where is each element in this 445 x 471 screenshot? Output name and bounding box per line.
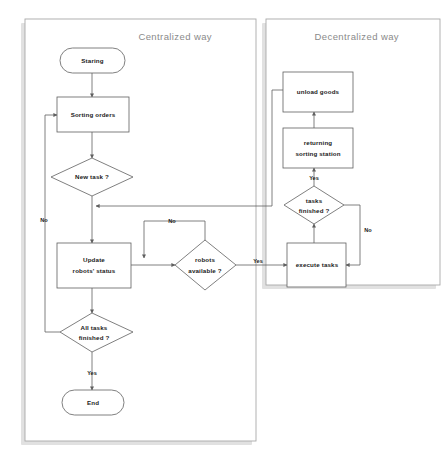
node-end-label: End [87,399,99,406]
node-returning-sorting-station[interactable] [283,128,353,168]
flowchart-canvas: Centralized way Decentralized way [0,0,445,471]
node-returning-sorting-station-label-1: returning [304,139,333,146]
edge-label-tasksfinished-yes: Yes [309,175,319,181]
node-update-robots-status[interactable] [57,243,131,288]
flowchart-diagram: Centralized way Decentralized way [0,0,445,471]
node-sorting-orders-label: Sorting orders [71,111,116,118]
node-unload-goods-label: unload goods [297,88,340,95]
node-robots-available-label-1: robots [195,256,216,263]
node-all-tasks-finished-label-1: All tasks [81,324,108,331]
node-execute-tasks-label: execute tasks [296,261,339,268]
centralized-panel [25,19,256,441]
decentralized-panel-title: Decentralized way [315,31,399,42]
edge-label-robotsavailable-no: No [168,218,176,224]
node-all-tasks-finished-label-2: finished ? [79,334,110,341]
edge-label-tasksfinished-no: No [364,227,372,233]
edge-label-robotsavailable-yes: Yes [253,258,263,264]
node-update-robots-status-label-2: robots' status [73,267,116,274]
node-returning-sorting-station-label-2: sorting station [295,150,340,157]
node-new-task-label: New task ? [75,173,109,180]
node-robots-available-label-2: available ? [188,267,221,274]
node-update-robots-status-label-1: Update [83,256,105,263]
centralized-panel-title: Centralized way [138,31,212,42]
edge-label-newtask-no: No [40,217,48,223]
node-start-label: Staring [81,57,103,64]
node-tasks-finished-label-2: finished ? [299,207,330,214]
edge-label-alltasks-yes: Yes [87,370,97,376]
node-tasks-finished-label-1: tasks [306,197,323,204]
